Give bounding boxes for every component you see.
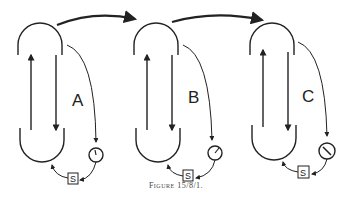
control-line	[80, 162, 96, 180]
s-label-b: S	[185, 171, 191, 181]
flow-arrow-a-to-b	[57, 16, 135, 25]
unit-label-a: A	[72, 91, 84, 110]
unit-b	[134, 23, 222, 181]
gauge-needle	[215, 148, 219, 153]
bottom-loop	[20, 128, 64, 162]
figure-caption: Figure 15/8/1.	[0, 181, 352, 190]
unit-c	[250, 23, 335, 178]
s-label-c: S	[300, 168, 306, 178]
flow-arrow-b-to-c	[172, 15, 262, 22]
top-loop	[18, 23, 62, 55]
unit-a	[18, 23, 103, 184]
gauge-needle	[323, 147, 331, 155]
diagram-canvas: A S B S C S	[0, 0, 352, 200]
gauge-needle	[95, 150, 96, 155]
return-line	[52, 165, 68, 178]
unit-label-c: C	[302, 87, 314, 106]
unit-label-b: B	[188, 88, 199, 107]
